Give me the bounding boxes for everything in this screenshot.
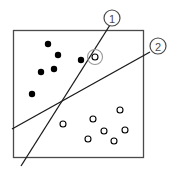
filled-point bbox=[78, 57, 84, 63]
boundary-label-1: 1 bbox=[104, 10, 120, 26]
hollow-point bbox=[122, 127, 128, 133]
boundary-label-2: 2 bbox=[150, 38, 166, 54]
figure-container: 1 2 bbox=[0, 0, 176, 171]
filled-point bbox=[45, 41, 51, 47]
filled-point bbox=[55, 52, 61, 58]
hollow-point bbox=[85, 136, 91, 142]
hollow-point bbox=[111, 138, 117, 144]
boundary-label-1-text: 1 bbox=[109, 13, 115, 25]
hollow-point bbox=[60, 121, 66, 127]
hollow-point bbox=[101, 128, 107, 134]
filled-point bbox=[51, 66, 57, 72]
scatter-plot-svg: 1 2 bbox=[0, 0, 176, 171]
filled-point bbox=[29, 91, 35, 97]
hollow-point bbox=[92, 54, 98, 60]
hollow-point bbox=[117, 107, 123, 113]
hollow-point bbox=[90, 116, 96, 122]
filled-point bbox=[38, 69, 44, 75]
boundary-label-2-text: 2 bbox=[155, 41, 161, 53]
